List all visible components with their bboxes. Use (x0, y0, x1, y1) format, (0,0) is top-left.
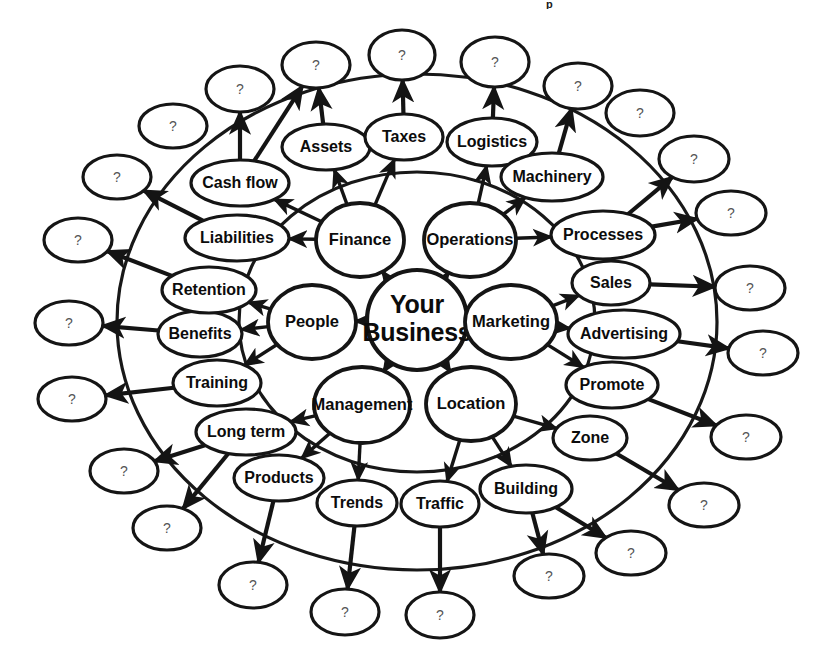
node-shape (311, 589, 379, 635)
node-q-03[interactable]: ? (282, 42, 350, 88)
node-shape (268, 285, 356, 359)
node-q-21[interactable]: ? (38, 377, 106, 421)
node-q-13[interactable]: ? (669, 483, 739, 527)
node-shape (365, 114, 443, 160)
node-q-17[interactable]: ? (311, 589, 379, 635)
node-shape (282, 124, 370, 170)
node-marketing[interactable]: Marketing (465, 285, 557, 359)
node-q-14[interactable]: ? (596, 531, 666, 575)
node-q-05[interactable]: ? (461, 37, 529, 87)
node-q-15[interactable]: ? (514, 554, 584, 598)
node-operations[interactable]: Operations (424, 203, 516, 277)
node-q-06[interactable]: ? (544, 63, 612, 109)
node-location[interactable]: Location (426, 367, 516, 441)
node-shape (461, 37, 529, 87)
node-management[interactable]: Management (312, 367, 413, 443)
node-shape (553, 416, 627, 460)
node-trends[interactable]: Trends (317, 480, 397, 526)
node-long-term[interactable]: Long term (196, 409, 296, 455)
node-q-22[interactable]: ? (35, 301, 103, 345)
node-cash-flow[interactable]: Cash flow (191, 160, 289, 206)
node-q-12[interactable]: ? (711, 415, 781, 459)
connector-operations-to-machinery (503, 197, 525, 214)
connector-building-to-q-14 (556, 507, 606, 537)
node-shape (196, 409, 296, 455)
node-center[interactable]: YourBusiness (363, 270, 472, 370)
node-shape (715, 266, 785, 310)
connector-people-to-benefits (241, 327, 268, 330)
node-shape (659, 136, 729, 182)
connector-trends-to-q-17 (348, 526, 355, 589)
node-shape (501, 153, 603, 201)
connector-people-to-training (245, 344, 277, 365)
node-shape (551, 211, 655, 259)
connector-finance-to-taxes (375, 159, 395, 205)
node-q-01[interactable]: ? (139, 104, 207, 148)
connector-marketing-to-advertising (557, 327, 570, 328)
node-machinery[interactable]: Machinery (501, 153, 603, 201)
node-q-20[interactable]: ? (90, 449, 158, 493)
node-shape (314, 367, 410, 443)
connector-promote-to-q-12 (648, 399, 716, 425)
node-shape (158, 311, 242, 357)
node-q-16[interactable]: ? (406, 592, 474, 638)
node-zone[interactable]: Zone (553, 416, 627, 460)
node-products[interactable]: Products (234, 455, 324, 501)
node-promote[interactable]: Promote (566, 362, 658, 408)
node-sales[interactable]: Sales (572, 261, 650, 305)
node-benefits[interactable]: Benefits (158, 311, 242, 357)
node-building[interactable]: Building (480, 465, 572, 513)
connector-marketing-to-sales (552, 296, 579, 306)
node-shape (480, 465, 572, 513)
node-shape (44, 218, 112, 262)
node-shape (35, 301, 103, 345)
connector-benefits-to-q-22 (103, 326, 159, 331)
business-mind-map-diagram: YourBusinessFinanceOperationsMarketingLo… (0, 0, 835, 661)
node-q-24[interactable]: ? (83, 155, 151, 199)
node-q-19[interactable]: ? (133, 506, 201, 550)
node-assets[interactable]: Assets (282, 124, 370, 170)
connector-management-to-long-term (291, 416, 316, 422)
node-shape (90, 449, 158, 493)
node-shape (185, 215, 289, 261)
node-shape (401, 481, 479, 527)
node-shape (369, 30, 435, 80)
node-taxes[interactable]: Taxes (365, 114, 443, 160)
connector-long-term-to-q-19 (183, 454, 228, 509)
node-shape (406, 592, 474, 638)
node-q-02[interactable]: ? (206, 66, 274, 112)
node-traffic[interactable]: Traffic (401, 481, 479, 527)
node-shape (424, 203, 516, 277)
node-q-08[interactable]: ? (659, 136, 729, 182)
node-shape (711, 415, 781, 459)
node-shape (191, 160, 289, 206)
node-q-09[interactable]: ? (696, 191, 766, 235)
node-shape (367, 270, 467, 370)
node-processes[interactable]: Processes (551, 211, 655, 259)
mindmap-canvas: p YourBusinessFinanceOperationsMarketing… (0, 0, 835, 661)
node-shape (572, 261, 650, 305)
node-people[interactable]: People (268, 285, 356, 359)
connector-location-to-traffic (447, 440, 460, 482)
node-q-10[interactable]: ? (715, 266, 785, 310)
node-shape (514, 554, 584, 598)
node-finance[interactable]: Finance (316, 203, 404, 277)
node-shape (173, 360, 261, 406)
node-q-23[interactable]: ? (44, 218, 112, 262)
node-q-07[interactable]: ? (606, 90, 674, 136)
connector-logistics-to-q-05 (493, 87, 494, 118)
node-liabilities[interactable]: Liabilities (185, 215, 289, 261)
node-advertising[interactable]: Advertising (568, 310, 680, 358)
node-training[interactable]: Training (173, 360, 261, 406)
node-retention[interactable]: Retention (162, 267, 256, 313)
node-shape (566, 362, 658, 408)
connector-products-to-q-18 (259, 501, 274, 562)
node-q-11[interactable]: ? (728, 331, 798, 375)
node-shape (282, 42, 350, 88)
node-q-18[interactable]: ? (219, 562, 287, 608)
connector-processes-to-q-08 (628, 177, 672, 214)
node-shape (426, 367, 516, 441)
node-shape (139, 104, 207, 148)
node-shape (133, 506, 201, 550)
node-q-04[interactable]: ? (369, 30, 435, 80)
